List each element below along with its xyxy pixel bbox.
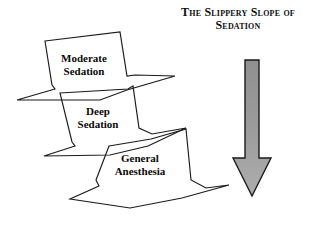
- label-moderate-line-1: Moderate: [48, 52, 120, 65]
- diagram-canvas: [0, 0, 317, 237]
- label-moderate-sedation: Moderate Sedation: [48, 52, 120, 77]
- slippery-slope-diagram: The Slippery Slope of Sedation Moderate …: [0, 0, 317, 237]
- label-moderate-line-2: Sedation: [48, 65, 120, 78]
- label-deep-line-2: Sedation: [66, 118, 130, 131]
- label-deep-line-1: Deep: [66, 105, 130, 118]
- label-general-line-2: Anesthesia: [100, 165, 180, 178]
- label-deep-sedation: Deep Sedation: [66, 105, 130, 130]
- label-general-anesthesia: General Anesthesia: [100, 152, 180, 177]
- label-general-line-1: General: [100, 152, 180, 165]
- downward-arrow-icon: [233, 60, 271, 196]
